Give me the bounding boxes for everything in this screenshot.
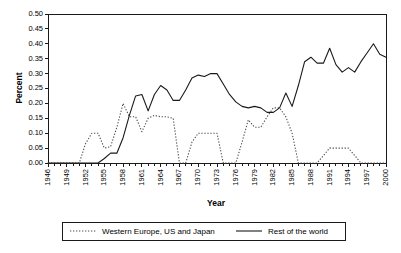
x-axis-tick-label: 1964 <box>156 169 165 186</box>
plot-frame <box>48 14 386 163</box>
y-axis-tick-label: 0.00 <box>28 158 43 167</box>
y-axis-tick-label: 0.50 <box>28 9 43 18</box>
y-axis-tick-label: 0.25 <box>28 83 43 92</box>
x-axis-tick-label: 1976 <box>231 169 240 186</box>
y-axis-tick-label: 0.10 <box>28 128 43 137</box>
legend-label-rest-of-world: Rest of the world <box>268 227 328 236</box>
y-axis-tick-label: 0.30 <box>28 69 43 78</box>
y-axis-tick-label: 0.40 <box>28 39 43 48</box>
chart-figure: 0.000.050.100.150.200.250.300.350.400.45… <box>0 0 401 253</box>
x-axis-tick-label: 1985 <box>287 169 296 186</box>
x-axis-tick-label: 1973 <box>212 169 221 186</box>
line-chart: 0.000.050.100.150.200.250.300.350.400.45… <box>0 0 401 253</box>
x-axis-tick-label: 1982 <box>268 169 277 186</box>
x-axis-ticks <box>48 163 386 167</box>
y-axis-title: Percent <box>14 72 24 103</box>
x-axis-tick-label: 1949 <box>62 169 71 186</box>
y-axis-tick-label: 0.15 <box>28 113 43 122</box>
x-axis-tick-label: 2000 <box>381 169 390 186</box>
chart-legend: Western Europe, US and JapanRest of the … <box>62 222 345 240</box>
y-axis-tick-labels: 0.000.050.100.150.200.250.300.350.400.45… <box>28 9 43 167</box>
x-axis-tick-label: 1946 <box>43 169 52 186</box>
y-axis-tick-label: 0.20 <box>28 98 43 107</box>
x-axis-tick-label: 1958 <box>118 169 127 186</box>
x-axis-tick-label: 1991 <box>325 169 334 186</box>
x-axis-tick-label: 1988 <box>306 169 315 186</box>
data-series-layer <box>48 44 386 163</box>
x-axis-tick-label: 1994 <box>343 169 352 186</box>
x-axis-tick-label: 1961 <box>137 169 146 186</box>
y-axis-tick-label: 0.35 <box>28 54 43 63</box>
x-axis-tick-labels: 1946194919521955195819611964196719701973… <box>43 169 390 186</box>
x-axis-tick-label: 1967 <box>174 169 183 186</box>
x-axis-tick-label: 1970 <box>193 169 202 186</box>
x-axis-tick-label: 1955 <box>99 169 108 186</box>
data-series-western-europe-us-japan <box>48 103 386 163</box>
x-axis-tick-label: 1952 <box>81 169 90 186</box>
x-axis-tick-label: 1997 <box>362 169 371 186</box>
y-axis-tick-label: 0.05 <box>28 143 43 152</box>
x-axis-tick-label: 1979 <box>250 169 259 186</box>
data-series-rest-of-world <box>48 44 386 163</box>
x-axis-title: Year <box>207 198 226 208</box>
y-axis-tick-label: 0.45 <box>28 24 43 33</box>
legend-label-western-europe-us-japan: Western Europe, US and Japan <box>102 227 215 236</box>
